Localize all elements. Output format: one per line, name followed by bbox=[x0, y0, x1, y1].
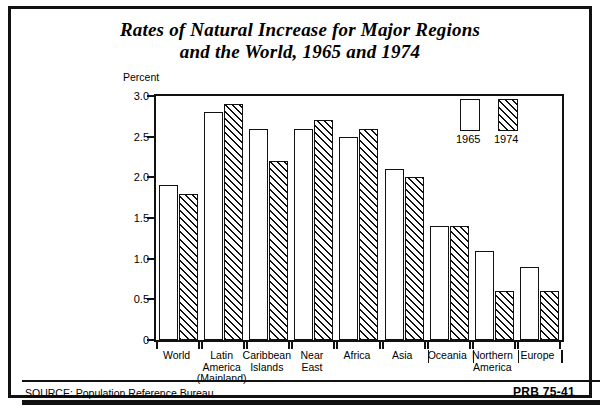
bar bbox=[269, 161, 288, 340]
x-tick-mark bbox=[514, 342, 516, 349]
x-label-divider bbox=[561, 350, 563, 363]
legend-label-1974: 1974 bbox=[494, 133, 518, 145]
bar-group bbox=[382, 96, 427, 340]
bar bbox=[475, 251, 494, 340]
x-label-divider bbox=[428, 350, 430, 363]
bar bbox=[294, 129, 313, 340]
x-tick-mark bbox=[517, 342, 519, 349]
x-label-divider bbox=[518, 350, 520, 363]
x-tick-mark bbox=[246, 342, 248, 349]
bar bbox=[430, 226, 449, 340]
bar bbox=[520, 267, 539, 340]
footer-bar bbox=[22, 400, 600, 405]
legend-label-1965: 1965 bbox=[456, 133, 480, 145]
chart-title-line-1: Rates of Natural Increase for Major Regi… bbox=[120, 19, 480, 40]
x-tick-mark bbox=[382, 342, 384, 349]
x-tick-mark bbox=[559, 342, 561, 349]
bar bbox=[385, 169, 404, 340]
publication-code: PRB 75-41 bbox=[513, 385, 575, 399]
legend-swatch-1965 bbox=[460, 99, 480, 131]
x-tick-mark bbox=[424, 342, 426, 349]
chart-title: Rates of Natural Increase for Major Regi… bbox=[11, 19, 589, 63]
x-tick-mark bbox=[427, 342, 429, 349]
source-note: SOURCE: Population Reference Bureau bbox=[25, 387, 214, 399]
x-tick-mark bbox=[288, 342, 290, 349]
x-tick-mark bbox=[469, 342, 471, 349]
footer-rule bbox=[22, 380, 600, 382]
bar bbox=[249, 129, 268, 340]
x-category-label-line: America bbox=[460, 362, 525, 374]
chart-title-line-2: and the World, 1965 and 1974 bbox=[11, 41, 589, 63]
bar-group bbox=[156, 96, 201, 340]
bar-group bbox=[246, 96, 291, 340]
bar bbox=[339, 137, 358, 340]
x-tick-mark bbox=[336, 342, 338, 349]
x-tick-mark bbox=[291, 342, 293, 349]
bar bbox=[314, 120, 333, 340]
bar bbox=[495, 291, 514, 340]
bar bbox=[359, 129, 378, 340]
y-axis-tick-labels: 00.51.01.52.02.53.0 bbox=[115, 87, 149, 349]
x-tick-mark bbox=[201, 342, 203, 349]
bar-group bbox=[201, 96, 246, 340]
x-tick-mark bbox=[379, 342, 381, 349]
x-tick-mark bbox=[243, 342, 245, 349]
bar bbox=[450, 226, 469, 340]
x-category-label-line: East bbox=[279, 362, 344, 374]
x-category-label-line: (Mainland) bbox=[189, 373, 254, 385]
x-tick-mark bbox=[472, 342, 474, 349]
x-tick-mark bbox=[156, 342, 158, 349]
x-label-divider bbox=[473, 350, 475, 363]
bar bbox=[540, 291, 559, 340]
bar-group bbox=[336, 96, 381, 340]
poster-frame: Rates of Natural Increase for Major Regi… bbox=[8, 6, 592, 398]
bar bbox=[405, 177, 424, 340]
x-tick-mark bbox=[333, 342, 335, 349]
bar bbox=[224, 104, 243, 340]
x-tick-mark bbox=[198, 342, 200, 349]
legend: 1965 1974 bbox=[460, 99, 546, 149]
legend-swatch-1974 bbox=[498, 99, 518, 131]
bar bbox=[179, 194, 198, 340]
bar-group bbox=[291, 96, 336, 340]
bar bbox=[159, 185, 178, 340]
x-axis-category-labels: WorldLatinAmerica(Mainland)CaribbeanIsla… bbox=[154, 350, 566, 384]
bar bbox=[204, 112, 223, 340]
y-axis-title: Percent bbox=[123, 71, 159, 83]
